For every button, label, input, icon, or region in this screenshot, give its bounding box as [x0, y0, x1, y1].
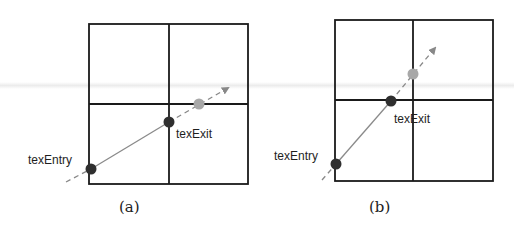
tex-entry-label-b: texEntry	[274, 149, 318, 163]
next-intersection-point-a	[194, 99, 205, 110]
tex-entry-label-a: texEntry	[28, 153, 72, 167]
tex-exit-point-b	[386, 96, 397, 107]
tex-exit-label-a: texExit	[176, 127, 213, 141]
texel-grid-a	[89, 24, 248, 184]
tex-exit-point-a	[164, 117, 175, 128]
panel-b: texEntry texExit (b)	[274, 20, 493, 216]
tex-exit-label-b: texExit	[394, 112, 431, 126]
panel-a: texEntry texExit (a)	[28, 24, 248, 216]
tex-entry-point-a	[86, 164, 97, 175]
caption-b: (b)	[369, 198, 390, 216]
ray-solid-segment-b	[336, 101, 391, 164]
tex-entry-point-b	[331, 159, 342, 170]
next-intersection-point-b	[408, 69, 419, 80]
texel-grid-b	[335, 20, 493, 181]
caption-a: (a)	[119, 198, 140, 216]
ray-solid-segment-a	[91, 122, 169, 169]
figure-canvas: texEntry texExit (a) texEntry texExit (b…	[0, 0, 514, 232]
